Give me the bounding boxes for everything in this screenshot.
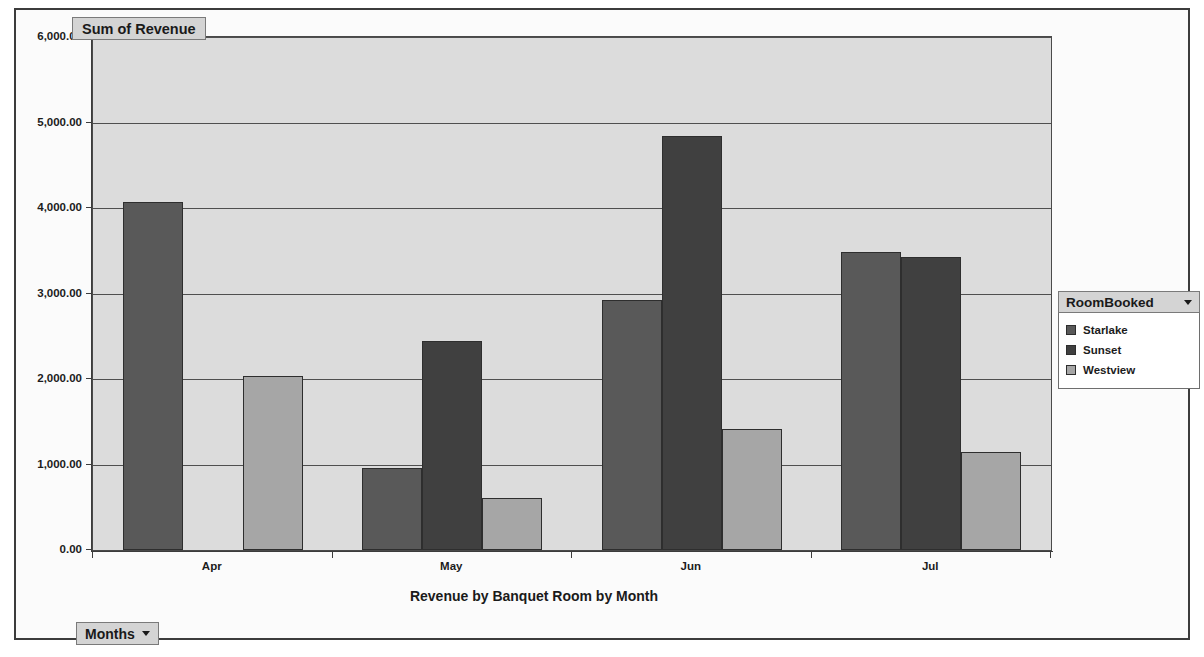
- y-axis-tick-mark: [86, 293, 92, 294]
- y-axis-tick-label: 4,000.00: [37, 201, 82, 213]
- x-axis-tick-mark: [1050, 551, 1051, 558]
- bar[interactable]: [961, 452, 1021, 550]
- y-axis-tick-label: 0.00: [60, 543, 82, 555]
- value-field-label: Sum of Revenue: [82, 21, 196, 37]
- legend-item-label: Starlake: [1083, 324, 1128, 336]
- legend-swatch-icon: [1066, 365, 1076, 375]
- bar[interactable]: [482, 498, 542, 550]
- legend-title: RoomBooked: [1066, 295, 1154, 310]
- y-axis-tick-label: 3,000.00: [37, 287, 82, 299]
- y-axis-tick-label: 1,000.00: [37, 458, 82, 470]
- y-axis-tick-mark: [86, 378, 92, 379]
- y-axis-tick-mark: [86, 464, 92, 465]
- legend-header-button[interactable]: RoomBooked: [1058, 291, 1200, 313]
- y-axis-line: [91, 36, 92, 552]
- legend-item[interactable]: Starlake: [1066, 320, 1192, 340]
- bar[interactable]: [123, 202, 183, 550]
- y-axis-tick-mark: [86, 207, 92, 208]
- value-field-button[interactable]: Sum of Revenue: [72, 17, 206, 40]
- bar[interactable]: [901, 257, 961, 550]
- category-field-button[interactable]: Months: [76, 622, 159, 645]
- plot-area: [92, 36, 1052, 551]
- legend: RoomBooked StarlakeSunsetWestview: [1058, 291, 1200, 389]
- x-axis-tick-label: May: [440, 560, 462, 572]
- legend-item[interactable]: Sunset: [1066, 340, 1192, 360]
- category-field-label: Months: [85, 626, 135, 642]
- x-axis-tick-label: Apr: [202, 560, 222, 572]
- gridline: [93, 37, 1051, 38]
- legend-item[interactable]: Westview: [1066, 360, 1192, 380]
- legend-swatch-icon: [1066, 345, 1076, 355]
- bar[interactable]: [243, 376, 303, 550]
- bar[interactable]: [722, 429, 782, 550]
- y-axis-labels: 0.001,000.002,000.003,000.004,000.005,00…: [16, 10, 82, 638]
- x-axis-tick-mark: [571, 551, 572, 558]
- chevron-down-icon: [1184, 300, 1192, 305]
- gridline: [93, 208, 1051, 209]
- y-axis-tick-mark: [86, 549, 92, 550]
- bar[interactable]: [362, 468, 422, 550]
- x-axis-tick-mark: [92, 551, 93, 558]
- x-axis-tick-mark: [811, 551, 812, 558]
- legend-swatch-icon: [1066, 325, 1076, 335]
- x-axis-tick-label: Jun: [681, 560, 701, 572]
- bar[interactable]: [662, 136, 722, 550]
- x-axis-tick-mark: [332, 551, 333, 558]
- legend-items: StarlakeSunsetWestview: [1058, 313, 1200, 389]
- bar[interactable]: [602, 300, 662, 551]
- x-axis-tick-label: Jul: [922, 560, 939, 572]
- chevron-down-icon: [142, 631, 150, 636]
- legend-item-label: Sunset: [1083, 344, 1121, 356]
- x-axis-line: [92, 551, 1053, 552]
- y-axis-tick-label: 5,000.00: [37, 116, 82, 128]
- y-axis-tick-mark: [86, 122, 92, 123]
- axis-title: Revenue by Banquet Room by Month: [16, 588, 1052, 604]
- chart-frame: Sum of Revenue 0.001,000.002,000.003,000…: [14, 8, 1190, 640]
- bar[interactable]: [422, 341, 482, 550]
- legend-item-label: Westview: [1083, 364, 1135, 376]
- y-axis-tick-label: 2,000.00: [37, 372, 82, 384]
- bar[interactable]: [841, 252, 901, 550]
- gridline: [93, 123, 1051, 124]
